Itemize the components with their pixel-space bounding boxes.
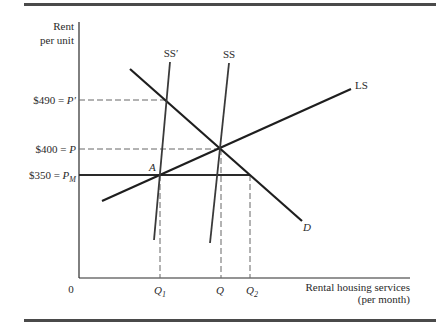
long-run-supply-curve — [102, 89, 351, 201]
demand-curve — [130, 69, 302, 221]
x-axis-label-line2: (per month) — [358, 293, 411, 306]
rent-control-diagram: Rent per unit $490 = P′ $400 = P $350 = … — [0, 0, 436, 324]
quantity-label-q: Q — [216, 284, 224, 296]
price-label-pm: $350 = PM — [29, 169, 77, 184]
y-axis-label-line1: Rent — [53, 20, 74, 32]
origin-label: 0 — [68, 283, 74, 295]
short-run-supply-shifted-curve — [154, 62, 170, 240]
ss-prime-label: SS′ — [164, 47, 179, 59]
point-a-label: A — [148, 161, 156, 173]
quantity-label-q1: Q1 — [154, 284, 166, 299]
quantity-label-q2: Q2 — [246, 284, 258, 299]
x-axis-label-line1: Rental housing services — [306, 281, 410, 293]
ls-label: LS — [355, 79, 368, 91]
top-rule — [24, 3, 436, 6]
price-label-p: $400 = P — [36, 143, 77, 155]
bottom-rule — [24, 319, 436, 322]
price-label-p-prime: $490 = P′ — [33, 94, 76, 106]
d-label: D — [302, 221, 311, 233]
ss-label: SS — [223, 48, 235, 60]
y-axis-label-line2: per unit — [40, 34, 74, 46]
